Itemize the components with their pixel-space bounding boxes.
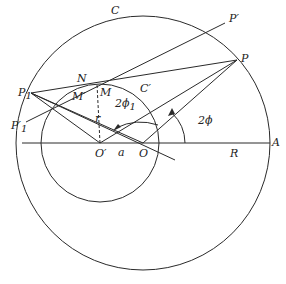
line-P-P1: [31, 60, 237, 93]
label-r: r: [95, 112, 101, 125]
label-O-prime: O′: [95, 147, 107, 160]
label-N: N: [76, 72, 87, 85]
label-2phi1: 2ϕ1: [114, 97, 136, 112]
label-P1-prime: P′1: [10, 119, 27, 134]
arc-2phi1: [116, 122, 158, 128]
label-P1: P1: [17, 86, 32, 101]
label-O: O: [139, 147, 148, 160]
label-2phi: 2ϕ: [197, 114, 213, 127]
label-M: M: [99, 86, 112, 99]
label-P: P: [240, 52, 249, 65]
label-C: C: [111, 4, 120, 17]
diagram-canvas: C P′ P N M M′ C′ P1 P′1 r 2ϕ1 2ϕ O′ a O …: [0, 0, 286, 284]
label-a: a: [118, 146, 125, 159]
label-A: A: [271, 136, 280, 149]
label-P-prime: P′: [228, 12, 239, 25]
geometry-diagram: C P′ P N M M′ C′ P1 P′1 r 2ϕ1 2ϕ O′ a O …: [0, 0, 286, 284]
label-C-prime: C′: [140, 82, 151, 95]
label-R: R: [229, 147, 238, 160]
arrowhead-2phi1: [113, 124, 121, 131]
arc-2phi: [172, 113, 185, 143]
label-M-prime: M′: [71, 90, 86, 103]
